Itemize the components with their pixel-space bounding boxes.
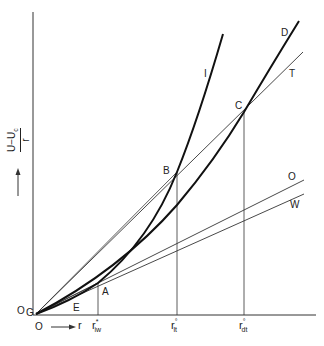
y-label-numerator: U−U <box>6 132 17 152</box>
curve-I-label: I <box>204 69 207 79</box>
tick-r-dt: r°dt <box>239 318 247 333</box>
line-W-label: W <box>290 200 299 210</box>
point-A-label: A <box>102 287 109 297</box>
line-T-label: T <box>289 69 295 79</box>
x-axis-label: r <box>78 320 82 331</box>
origin-point-label: G <box>26 308 34 318</box>
line-T <box>36 52 303 314</box>
x-arrowhead-icon <box>69 325 76 330</box>
point-B-label: B <box>163 166 170 176</box>
diagram-canvas <box>0 0 324 346</box>
curve-D-label: D <box>281 28 288 38</box>
y-label-numerator-sub: c <box>12 128 19 132</box>
x-origin-label: O <box>35 322 43 332</box>
y-axis-label: U−Uc r <box>7 102 21 152</box>
line-O-label: O <box>288 172 296 182</box>
tick-r-iw: r*iw <box>92 318 101 333</box>
tick-r-lt: r°lt <box>171 318 177 333</box>
y-arrowhead-icon <box>16 168 21 175</box>
point-C-label: C <box>235 101 242 111</box>
y-origin-label: O <box>17 306 25 316</box>
point-E-label: E <box>73 303 80 313</box>
y-label-denominator: r <box>21 128 31 152</box>
